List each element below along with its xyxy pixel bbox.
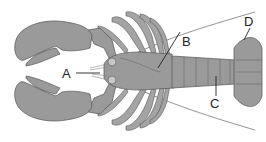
tail-fan <box>234 38 262 107</box>
lobster-diagram: A B C D <box>0 0 266 142</box>
eye-bottom <box>108 76 116 84</box>
label-d: D <box>244 14 253 29</box>
label-a: A <box>62 66 71 81</box>
cephalothorax <box>104 52 174 90</box>
label-b: B <box>182 34 191 49</box>
label-c: C <box>210 96 219 111</box>
eye-top <box>108 58 116 66</box>
abdomen <box>172 56 236 88</box>
